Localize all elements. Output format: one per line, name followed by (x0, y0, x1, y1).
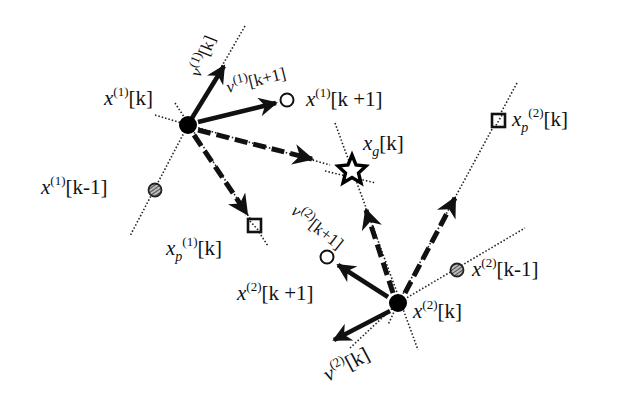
social-arrow-agent2 (366, 210, 393, 293)
label-agent2-personal-best: xp(2)[k] (511, 105, 568, 135)
label-agent1-velocity-next: v(1)[k+1] (223, 60, 287, 97)
global-best-star-icon (338, 155, 366, 183)
cognitive-arrow-agent2 (405, 198, 455, 293)
agent1-previous-position (149, 184, 162, 197)
velocity-next-arrow-agent2 (338, 265, 388, 297)
agent2-personal-best-square (492, 114, 505, 127)
label-global-best: xg[k] (362, 131, 404, 159)
social-arrow-agent1 (198, 130, 312, 159)
label-agent2-velocity: v(2)[k] (318, 340, 373, 386)
agent2-previous-position (451, 264, 464, 277)
agent1-current-position (179, 116, 197, 134)
label-agent2-next: x(2)[k +1] (236, 279, 314, 305)
label-agent2-previous: x(2)[k-1] (471, 255, 538, 281)
label-agent1-previous: x(1)[k-1] (40, 173, 107, 199)
cognitive-arrow-agent1 (194, 135, 247, 214)
label-agent1-personal-best: xp(1)[k] (165, 234, 222, 264)
label-agent1-next: x(1)[k +1] (305, 85, 383, 111)
agent1-personal-best-square (248, 219, 261, 232)
label-agent2-current: x(2)[k] (412, 297, 462, 323)
agent2-current-position (389, 294, 407, 312)
label-agent1-velocity: v(1)[k] (182, 31, 219, 79)
velocity-next-arrow-agent1 (198, 103, 276, 122)
pso-diagram: x(1)[k] x(1)[k +1] x(1)[k-1] xp(1)[k] v(… (0, 0, 623, 398)
label-agent2-velocity-next: v(2)[k+1] (288, 198, 350, 253)
agent1-next-position (281, 94, 294, 107)
agent2-next-position (321, 251, 334, 264)
velocity-arrow-agent2 (334, 311, 390, 340)
label-agent1-current: x(1)[k] (103, 84, 153, 110)
